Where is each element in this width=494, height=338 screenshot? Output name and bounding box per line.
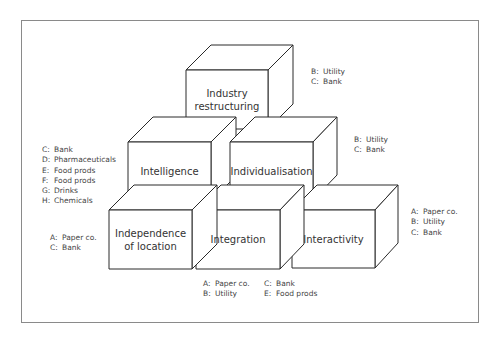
note-row: H:Chemicals	[42, 196, 116, 206]
note-independence-of-location: A:Paper co. C:Bank	[50, 233, 97, 254]
note-row: B:Utility	[354, 135, 388, 145]
note-row: F:Food prods	[42, 176, 116, 186]
cube-integration: Integration	[196, 210, 280, 269]
cube-label-line: Independence	[115, 227, 186, 240]
note-row: D:Pharmaceuticals	[42, 155, 116, 165]
cube-label-line: Interactivity	[303, 233, 363, 246]
note-row: C:Bank	[354, 145, 388, 155]
note-integration-col2: C:Bank E:Food prods	[264, 279, 317, 300]
note-individualisation: B:Utility C:Bank	[354, 135, 388, 156]
note-row: E:Food prods	[42, 166, 116, 176]
cube-individualisation: Individualisation	[230, 142, 313, 200]
cube-intelligence: Intelligence	[128, 142, 211, 201]
cube-interactivity: Interactivity	[292, 210, 375, 268]
note-row: B:Utility	[203, 289, 250, 299]
cube-label-line: Intelligence	[140, 165, 198, 178]
note-row: B:Utility	[311, 67, 345, 77]
note-intelligence: C:Bank D:Pharmaceuticals E:Food prods F:…	[42, 145, 116, 207]
cube-industry-restructuring: Industry restructuring	[186, 70, 268, 129]
note-industry-restructuring: B:Utility C:Bank	[311, 67, 345, 88]
note-row: C:Bank	[50, 243, 97, 253]
cube-independence-of-location: Independence of location	[109, 210, 192, 269]
note-row: C:Bank	[311, 77, 345, 87]
note-row: C:Bank	[264, 279, 317, 289]
note-interactivity: A:Paper co. B:Utility C:Bank	[411, 207, 458, 238]
cube-label-line: Industry	[195, 87, 260, 100]
cube-label-line: Integration	[210, 233, 265, 246]
note-row: A:Paper co.	[411, 207, 458, 217]
cube-label-line: Individualisation	[231, 165, 313, 178]
note-row: C:Bank	[411, 228, 458, 238]
note-row: E:Food prods	[264, 289, 317, 299]
note-integration-col1: A:Paper co. B:Utility	[203, 279, 250, 300]
note-row: C:Bank	[42, 145, 116, 155]
cube-label-line: of location	[115, 240, 186, 253]
note-row: G:Drinks	[42, 186, 116, 196]
note-row: A:Paper co.	[203, 279, 250, 289]
note-row: B:Utility	[411, 217, 458, 227]
cube-label-line: restructuring	[195, 100, 260, 113]
note-row: A:Paper co.	[50, 233, 97, 243]
